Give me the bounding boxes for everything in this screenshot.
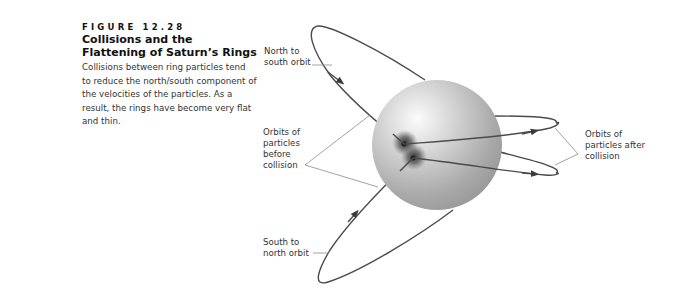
after-orbit-2-back [500,152,557,173]
label-before-collision: Orbits of particles before collision [263,127,300,171]
label-after-collision: Orbits of particles after collision [585,129,645,162]
after-orbit-1-back [495,116,556,123]
arrowhead-icon [522,173,535,174]
label-north-to-south: North to south orbit [264,46,311,68]
collision-diagram [0,0,673,305]
label-south-to-north: South to north orbit [263,237,309,259]
sphere-planet-icon [372,80,502,210]
